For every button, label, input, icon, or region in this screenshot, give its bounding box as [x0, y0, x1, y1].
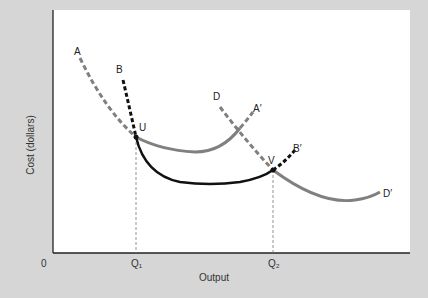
label-a: A	[74, 46, 81, 57]
x-axis-title: Output	[199, 272, 229, 283]
y-axis-title: Cost (dollars)	[25, 115, 36, 174]
point-v	[271, 168, 276, 173]
origin-label: 0	[41, 258, 47, 269]
label-u: U	[139, 122, 146, 133]
label-b-prime: B′	[293, 143, 302, 154]
label-d-prime: D′	[383, 188, 392, 199]
cost-curve-diagram: A B D A′ B′ D′ U V 0 Q₁ Q₂ Output Cost (…	[0, 0, 428, 298]
tick-q1: Q₁	[131, 258, 143, 269]
plot-area	[53, 10, 410, 253]
point-u	[134, 135, 139, 140]
label-d: D	[213, 91, 220, 102]
label-a-prime: A′	[253, 103, 262, 114]
label-b: B	[116, 64, 123, 75]
label-v: V	[268, 155, 275, 166]
tick-q2: Q₂	[268, 258, 280, 269]
